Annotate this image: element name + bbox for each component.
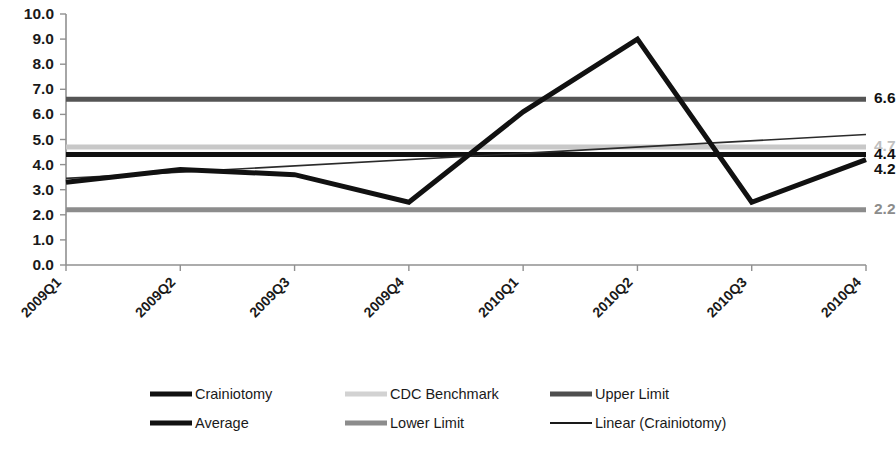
- data-series-layer: [66, 39, 866, 210]
- chart-legend: CrainiotomyCDC BenchmarkUpper LimitAvera…: [150, 386, 726, 431]
- legend-label: Average: [195, 415, 249, 431]
- x-tick-label: 2010Q1: [475, 274, 522, 321]
- end-value-label: 4.2: [874, 160, 896, 177]
- chart-canvas: 0.01.02.03.04.05.06.07.08.09.010.0 6.64.…: [0, 0, 896, 449]
- legend-item[interactable]: CDC Benchmark: [345, 386, 500, 402]
- axes: [60, 14, 866, 271]
- y-tick-label: 9.0: [32, 30, 54, 47]
- y-tick-label: 7.0: [32, 80, 54, 97]
- y-tick-label: 1.0: [32, 231, 54, 248]
- legend-label: Crainiotomy: [195, 386, 273, 402]
- x-tick-label-group: 2010Q2: [589, 274, 636, 321]
- end-value-label: 6.6: [874, 89, 896, 106]
- y-tick-marks: [60, 14, 66, 265]
- x-axis-tick-labels: 2009Q12009Q22009Q32009Q42010Q12010Q22010…: [18, 274, 865, 321]
- x-tick-label-group: 2010Q4: [818, 274, 865, 321]
- y-tick-label: 3.0: [32, 181, 54, 198]
- legend-label: Linear (Crainiotomy): [595, 415, 726, 431]
- x-tick-label-group: 2009Q2: [132, 274, 179, 321]
- legend-item[interactable]: Lower Limit: [345, 415, 464, 431]
- x-tick-label-group: 2009Q3: [246, 274, 293, 321]
- y-tick-label: 0.0: [32, 256, 54, 273]
- x-tick-label-group: 2009Q4: [360, 274, 407, 321]
- legend-item[interactable]: Crainiotomy: [150, 386, 273, 402]
- end-value-labels: 6.64.74.44.22.2: [874, 89, 896, 216]
- legend-item[interactable]: Average: [150, 415, 249, 431]
- line-chart: 0.01.02.03.04.05.06.07.08.09.010.0 6.64.…: [0, 0, 896, 449]
- x-tick-label-group: 2010Q3: [703, 274, 750, 321]
- x-tick-label: 2010Q3: [703, 274, 750, 321]
- x-tick-label-group: 2010Q1: [475, 274, 522, 321]
- x-tick-label: 2010Q4: [818, 274, 865, 321]
- x-tick-label: 2010Q2: [589, 274, 636, 321]
- legend-label: Upper Limit: [595, 386, 669, 402]
- legend-item[interactable]: Upper Limit: [550, 386, 669, 402]
- x-tick-label-group: 2009Q1: [18, 274, 65, 321]
- legend-label: Lower Limit: [390, 415, 464, 431]
- y-tick-label: 4.0: [32, 156, 54, 173]
- x-tick-marks: [66, 265, 866, 271]
- y-tick-label: 6.0: [32, 105, 54, 122]
- y-tick-label: 10.0: [24, 5, 54, 22]
- x-tick-label: 2009Q2: [132, 274, 179, 321]
- x-tick-label: 2009Q3: [246, 274, 293, 321]
- y-axis-tick-labels: 0.01.02.03.04.05.06.07.08.09.010.0: [24, 5, 54, 273]
- end-value-label: 2.2: [874, 200, 896, 217]
- x-tick-label: 2009Q1: [18, 274, 65, 321]
- y-tick-label: 8.0: [32, 55, 54, 72]
- legend-item[interactable]: Linear (Crainiotomy): [550, 415, 726, 431]
- y-tick-label: 2.0: [32, 206, 54, 223]
- legend-label: CDC Benchmark: [390, 386, 500, 402]
- x-tick-label: 2009Q4: [360, 274, 407, 321]
- series-line-crainiotomy: [66, 39, 866, 202]
- y-tick-label: 5.0: [32, 131, 54, 148]
